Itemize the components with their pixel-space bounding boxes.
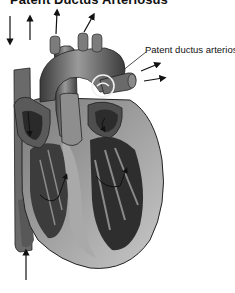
left-subclavian-artery [92,34,102,52]
brachiocephalic-artery [50,36,60,54]
ascending-aorta [60,93,82,145]
pulmonary-artery-arrow-2 [144,78,163,81]
aortic-outflow-arrow-2 [84,16,93,32]
left-carotid-artery [78,33,88,51]
aortic-arch [40,48,125,102]
aortic-outflow-arrow-1 [56,12,57,34]
heart-illustration [0,0,235,293]
pulmonary-artery-arrow-1 [141,64,158,71]
